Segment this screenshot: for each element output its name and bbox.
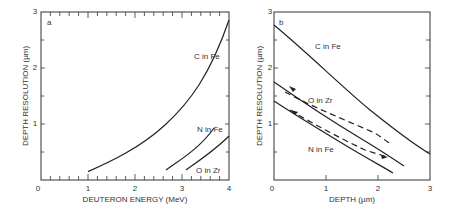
panel-a-label-c-in-fe: C in Fe xyxy=(194,52,220,61)
panel-b-ytick-2: 2 xyxy=(268,63,273,72)
panel-b-curve-n-in-fe xyxy=(274,101,393,173)
figure: 3 2 1 0 1 2 3 4 DEUTERON ENERGY (MeV) DE… xyxy=(0,0,451,213)
panel-a-label-n-in-fe: N in Fe xyxy=(197,125,223,134)
panel-a-xtick-1: 1 xyxy=(86,184,91,193)
panel-a-ytick-2: 2 xyxy=(33,63,38,72)
panel-a-xtick-2: 2 xyxy=(133,184,138,193)
panel-a-xtick-0: 0 xyxy=(36,184,41,193)
panel-b-curve-o-in-zr xyxy=(274,82,404,166)
panel-b-arrowhead-o xyxy=(289,86,296,92)
panel-a-xlabel: DEUTERON ENERGY (MeV) xyxy=(83,195,188,204)
panel-b-label-c-in-fe: C in Fe xyxy=(315,42,341,51)
panel-b-curve-c-in-fe xyxy=(274,25,430,154)
panel-b-ytick-1: 1 xyxy=(268,119,273,128)
panel-b: 3 2 1 0 1 2 3 DEPTH (µm) DEPTH RESOLUTIO… xyxy=(255,7,433,204)
panel-b-ylabel: DEPTH RESOLUTION (µm) xyxy=(255,46,264,147)
panel-a-ytick-1: 1 xyxy=(33,119,38,128)
panel-b-xtick-3: 3 xyxy=(428,184,433,193)
panel-b-letter: b xyxy=(279,18,284,27)
panel-a-xtick-3: 3 xyxy=(180,184,185,193)
panel-a-xtick-4: 4 xyxy=(227,184,232,193)
panel-b-ytick-3: 3 xyxy=(268,7,273,16)
panel-a-curve-n-in-fe xyxy=(166,128,214,170)
panel-b-xlabel: DEPTH (µm) xyxy=(329,195,375,204)
panel-b-label-o-in-zr: O in Zr xyxy=(308,96,333,105)
panel-a-ticks xyxy=(41,12,229,180)
panel-a-ylabel: DEPTH RESOLUTION (µm) xyxy=(21,46,30,147)
panel-b-xtick-2: 2 xyxy=(376,184,381,193)
panel-b-label-n-in-fe: N in Fe xyxy=(308,145,334,154)
panel-b-xtick-1: 1 xyxy=(324,184,329,193)
panel-a: 3 2 1 0 1 2 3 4 DEUTERON ENERGY (MeV) DE… xyxy=(21,7,232,204)
panel-a-ytick-3: 3 xyxy=(33,7,38,16)
panel-a-letter: a xyxy=(47,18,52,27)
panel-b-frame xyxy=(274,12,430,180)
panel-a-label-o-in-zr: O in Zr xyxy=(196,166,221,175)
panel-a-curve-c-in-fe xyxy=(88,20,229,172)
panel-b-xtick-0: 0 xyxy=(270,184,275,193)
panel-b-ticks xyxy=(274,40,430,180)
panel-b-dashed-n-in-fe xyxy=(290,110,387,157)
panel-a-curve-o-in-zr xyxy=(186,136,229,170)
panel-a-frame xyxy=(41,12,229,180)
